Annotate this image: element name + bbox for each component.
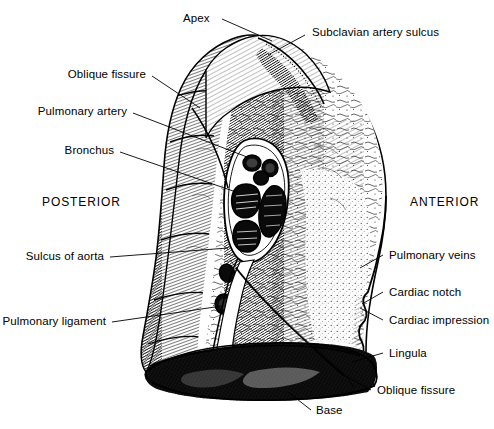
- label-subclavian-artery-sulcus: Subclavian artery sulcus: [312, 26, 439, 39]
- label-apex: Apex: [183, 12, 210, 25]
- label-bronchus: Bronchus: [0, 144, 114, 157]
- label-sulcus-of-aorta: Sulcus of aorta: [0, 250, 104, 263]
- label-oblique-fissure-bottom: Oblique fissure: [377, 384, 455, 397]
- orientation-anterior: ANTERIOR: [410, 195, 479, 209]
- orientation-posterior: POSTERIOR: [42, 195, 121, 209]
- label-cardiac-notch: Cardiac notch: [389, 286, 461, 299]
- label-pulmonary-ligament: Pulmonary ligament: [0, 315, 106, 328]
- lung-illustration: [0, 0, 494, 429]
- label-oblique-fissure-top: Oblique fissure: [0, 68, 146, 81]
- label-lingula: Lingula: [389, 347, 427, 360]
- lung-anatomy-figure: Apex Subclavian artery sulcus Oblique fi…: [0, 0, 494, 429]
- lung-body: [130, 20, 400, 429]
- label-pulmonary-artery: Pulmonary artery: [0, 105, 127, 118]
- bronchus-lumen: [232, 184, 261, 218]
- label-pulmonary-veins: Pulmonary veins: [389, 249, 476, 262]
- label-base: Base: [316, 404, 343, 417]
- label-cardiac-impression: Cardiac impression: [389, 314, 489, 327]
